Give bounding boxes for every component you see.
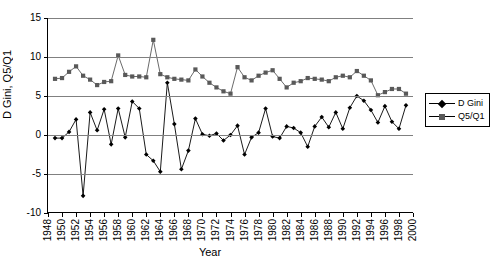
x-tick-label: 2000 — [408, 219, 418, 241]
x-tick-label: 1986 — [310, 219, 320, 241]
x-tick-label: 1948 — [43, 219, 53, 241]
x-tick-label: 1950 — [57, 219, 67, 241]
x-tick-mark — [259, 213, 260, 217]
x-tick-mark — [174, 213, 175, 217]
x-tick-label: 1996 — [380, 219, 390, 241]
x-tick-mark — [231, 213, 232, 217]
y-axis-line — [47, 18, 48, 213]
x-tick-label: 1964 — [155, 219, 165, 241]
x-tick-mark — [90, 213, 91, 217]
legend-item-q5-q1[interactable]: Q5/Q1 — [429, 110, 485, 123]
legend-item-d-gini[interactable]: D Gini — [429, 97, 485, 110]
x-tick-label: 1952 — [71, 219, 81, 241]
x-tick-mark — [76, 213, 77, 217]
x-tick-label: 1974 — [226, 219, 236, 241]
x-tick-label: 1954 — [85, 219, 95, 241]
x-tick-mark — [188, 213, 189, 217]
x-tick-mark — [146, 213, 147, 217]
diamond-marker-icon — [429, 98, 455, 109]
x-axis-title: Year — [0, 247, 420, 258]
x-tick-label: 1970 — [197, 219, 207, 241]
x-tick-label: 1994 — [366, 219, 376, 241]
y-tick-label: 5 — [35, 91, 41, 101]
x-tick-mark — [357, 213, 358, 217]
legend-label-q5-q1: Q5/Q1 — [458, 112, 485, 121]
x-tick-label: 1972 — [211, 219, 221, 241]
x-tick-mark — [245, 213, 246, 217]
gridline — [48, 96, 413, 97]
y-tick-label: 10 — [30, 52, 41, 62]
x-tick-label: 1998 — [394, 219, 404, 241]
x-tick-mark — [287, 213, 288, 217]
x-tick-mark — [202, 213, 203, 217]
x-tick-mark — [343, 213, 344, 217]
x-tick-mark — [48, 213, 49, 217]
x-tick-mark — [273, 213, 274, 217]
chart-container: D Gini, Q5/Q1 151050-5-10 19481950195219… — [0, 0, 503, 266]
y-tick-label: -10 — [27, 208, 41, 218]
x-tick-label: 1982 — [282, 219, 292, 241]
x-tick-label: 1966 — [169, 219, 179, 241]
y-tick-mark — [44, 57, 48, 58]
y-tick-mark — [44, 135, 48, 136]
y-tick-label: 0 — [35, 130, 41, 140]
plot-area: 151050-5-10 1948195019521954195619581960… — [48, 18, 413, 213]
x-tick-label: 1960 — [127, 219, 137, 241]
x-tick-label: 1958 — [113, 219, 123, 241]
plot-frame — [48, 18, 413, 213]
x-tick-mark — [62, 213, 63, 217]
gridline — [48, 18, 413, 19]
x-tick-mark — [371, 213, 372, 217]
y-tick-mark — [44, 174, 48, 175]
x-tick-label: 1990 — [338, 219, 348, 241]
x-tick-mark — [118, 213, 119, 217]
legend-label-d-gini: D Gini — [458, 99, 483, 108]
y-tick-label: -5 — [32, 169, 41, 179]
gridline — [48, 135, 413, 136]
x-tick-mark — [160, 213, 161, 217]
x-tick-label: 1988 — [324, 219, 334, 241]
x-tick-mark — [329, 213, 330, 217]
x-tick-mark — [315, 213, 316, 217]
gridline — [48, 174, 413, 175]
x-tick-mark — [301, 213, 302, 217]
chart-legend: D Gini Q5/Q1 — [425, 93, 490, 127]
x-tick-mark — [132, 213, 133, 217]
x-tick-label: 1976 — [240, 219, 250, 241]
x-tick-mark — [216, 213, 217, 217]
x-tick-label: 1992 — [352, 219, 362, 241]
y-tick-label: 15 — [30, 13, 41, 23]
y-axis-title: D Gini, Q5/Q1 — [2, 50, 13, 119]
x-tick-label: 1962 — [141, 219, 151, 241]
x-tick-label: 1984 — [296, 219, 306, 241]
x-tick-mark — [104, 213, 105, 217]
x-tick-label: 1978 — [254, 219, 264, 241]
x-tick-mark — [413, 213, 414, 217]
y-tick-mark — [44, 18, 48, 19]
square-marker-icon — [429, 111, 455, 122]
x-tick-mark — [385, 213, 386, 217]
x-tick-label: 1956 — [99, 219, 109, 241]
y-tick-mark — [44, 96, 48, 97]
gridline — [48, 57, 413, 58]
x-tick-mark — [399, 213, 400, 217]
x-tick-label: 1968 — [183, 219, 193, 241]
x-tick-label: 1980 — [268, 219, 278, 241]
